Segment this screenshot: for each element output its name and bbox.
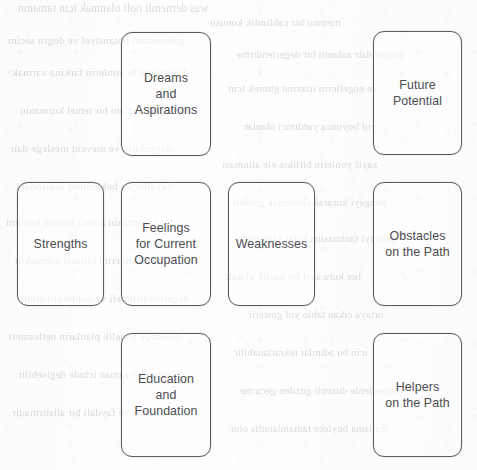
diagram-card-helpers-on-the-path[interactable]: Helpers on the Path: [373, 333, 462, 457]
diagram-card-weaknesses[interactable]: Weaknesses: [228, 182, 315, 306]
diagram-card-strengths[interactable]: Strengths: [17, 182, 104, 306]
diagram-card-label: Feelings for Current Occupation: [130, 220, 202, 269]
diagram-card-label: Obstacles on the Path: [381, 228, 453, 260]
diagram-card-feelings-for-current-occupation[interactable]: Feelings for Current Occupation: [121, 182, 211, 306]
diagram-card-label: Education and Foundation: [130, 371, 201, 420]
diagram-card-grid: Dreams and AspirationsFuture PotentialSt…: [0, 0, 477, 470]
diagram-card-label: Strengths: [30, 236, 92, 252]
diagram-card-label: Helpers on the Path: [381, 379, 453, 411]
diagram-card-future-potential[interactable]: Future Potential: [373, 31, 462, 155]
diagram-card-obstacles-on-the-path[interactable]: Obstacles on the Path: [373, 182, 462, 306]
diagram-card-label: Dreams and Aspirations: [131, 70, 201, 119]
diagram-card-label: Weaknesses: [232, 236, 312, 252]
diagram-card-education-and-foundation[interactable]: Education and Foundation: [121, 333, 211, 457]
diagram-card-label: Future Potential: [389, 77, 446, 109]
scanned-page: was dernemli ooli olanmak icin tamamnmem…: [0, 0, 477, 470]
diagram-card-dreams-and-aspirations[interactable]: Dreams and Aspirations: [121, 32, 211, 156]
